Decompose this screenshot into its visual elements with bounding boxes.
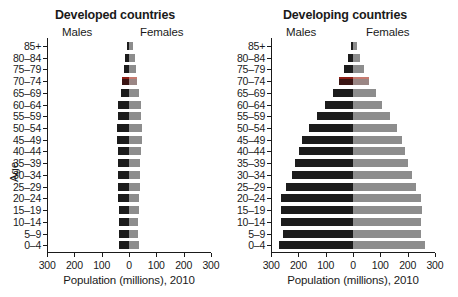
bar-female [353,124,397,132]
bar-female [129,124,142,132]
panel-title-developed: Developed countries [0,8,235,22]
panel-developing-countries: Developing countries Males Females 30020… [224,0,458,297]
y-axis-tick [43,210,47,211]
bar-female [353,171,412,179]
bar-female [129,171,140,179]
y-axis-tick [267,151,271,152]
y-axis-tick [267,69,271,70]
age-group-label: 10–14 [7,216,41,228]
bar-female [129,54,135,62]
x-axis-tick-label: 300 [426,259,443,271]
x-axis-tick [298,253,299,257]
y-axis-tick [267,81,271,82]
bar-male [118,183,129,191]
age-group-label: 85+ [7,40,41,52]
y-axis-tick [43,116,47,117]
bar-male [118,171,129,179]
bar-female [353,77,369,85]
bar-male [119,241,129,249]
y-axis-tick [43,58,47,59]
bar-male [333,89,353,97]
panel-title-developing: Developing countries [228,8,458,22]
bar-female [129,218,138,226]
x-axis-tick-label: 300 [39,259,56,271]
y-axis-tick [267,245,271,246]
x-axis-tick [47,253,48,257]
bar-male [299,147,353,155]
y-axis-tick [43,140,47,141]
x-axis-tick [271,253,272,257]
age-group-label: 45–49 [231,134,265,146]
x-axis-label: Population (millions), 2010 [47,274,211,286]
age-group-label: 25–29 [231,181,265,193]
bar-female [353,112,390,120]
y-axis-tick [267,234,271,235]
x-axis-tick [156,253,157,257]
y-axis-tick [267,222,271,223]
bar-female [129,147,141,155]
bar-male [295,159,353,167]
bar-female [353,183,416,191]
y-axis-tick [43,175,47,176]
age-group-label: 45–49 [7,134,41,146]
y-axis-tick [43,105,47,106]
x-axis-tick [408,253,409,257]
x-axis-tick-label: 100 [372,259,389,271]
age-group-label: 50–54 [231,122,265,134]
y-axis-tick [267,198,271,199]
bar-male [283,230,353,238]
bar-female [353,241,425,249]
age-group-label: 20–24 [7,192,41,204]
bar-female [353,89,376,97]
age-group-label: 40–44 [231,145,265,157]
x-axis-tick [435,253,436,257]
x-axis-tick [211,253,212,257]
bar-female [129,89,139,97]
male-header-developing: Males [286,26,316,38]
age-group-label: 15–19 [7,204,41,216]
age-group-label: 80–84 [7,52,41,64]
age-group-label: 50–54 [7,122,41,134]
y-axis-tick [43,198,47,199]
age-group-label: 5–9 [7,228,41,240]
x-axis-tick-label: 0 [350,259,356,271]
bar-male [286,183,353,191]
bar-female [353,230,421,238]
age-group-label: 5–9 [231,228,265,240]
x-axis-tick-label: 200 [399,259,416,271]
age-group-label: 40–44 [7,145,41,157]
bar-male [121,89,129,97]
y-axis-tick [267,175,271,176]
y-axis-tick [43,69,47,70]
y-axis-tick [43,234,47,235]
bar-female [129,230,138,238]
bar-female [353,136,402,144]
age-group-label: 20–24 [231,192,265,204]
bar-female [129,112,141,120]
population-pyramid-figure: Developed countries Males Females 300200… [0,0,458,297]
y-axis-tick [267,46,271,47]
age-group-label: 75–79 [7,63,41,75]
bar-female [129,65,136,73]
bar-female [353,206,422,214]
female-header-developed: Females [140,26,183,38]
bar-female [353,65,364,73]
age-group-label: 60–64 [231,99,265,111]
bar-male [281,194,353,202]
age-group-label: 70–74 [231,75,265,87]
bar-female [129,136,142,144]
bar-male [292,171,353,179]
x-axis-tick-label: 300 [263,259,280,271]
x-axis-tick-label: 100 [317,259,334,271]
age-group-label: 75–79 [231,63,265,75]
y-axis-label: Age [8,162,20,182]
y-axis-tick [267,187,271,188]
x-axis-tick [326,253,327,257]
age-group-label: 30–34 [231,169,265,181]
x-axis-tick-label: 100 [93,259,110,271]
bar-female [353,42,357,50]
y-axis-tick [267,116,271,117]
bar-male [118,194,129,202]
y-axis-tick [43,46,47,47]
bar-female [353,54,360,62]
